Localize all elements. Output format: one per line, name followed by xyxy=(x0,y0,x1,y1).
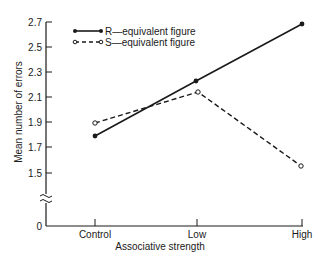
y-tick-label: 1.7 xyxy=(28,142,42,153)
y-tick-label: 1.5 xyxy=(28,168,42,179)
axis-break-icon xyxy=(40,200,52,203)
data-point-s-control xyxy=(93,121,97,125)
data-point-r-high xyxy=(300,22,305,27)
line-chart: 2.7 2.5 2.3 2.1 1.9 1.7 1.5 0 Control Lo… xyxy=(0,0,327,265)
y-tick-label: 2.3 xyxy=(28,67,42,78)
legend-r-marker-icon xyxy=(99,29,103,33)
y-axis-title: Mean number of errors xyxy=(13,61,24,163)
x-ticks xyxy=(95,219,302,226)
y-tick-label: 2.1 xyxy=(28,92,42,103)
y-ticks xyxy=(46,22,52,173)
x-axis-title: Associative strength xyxy=(115,241,205,252)
legend-r-label: R—equivalent figure xyxy=(105,26,196,37)
y-tick-label: 2.5 xyxy=(28,42,42,53)
y-tick-label: 0 xyxy=(36,221,42,232)
y-tick-labels: 2.7 2.5 2.3 2.1 1.9 1.7 1.5 0 xyxy=(28,17,42,232)
data-point-r-low xyxy=(194,79,199,84)
data-point-r-control xyxy=(93,134,98,139)
legend-r-marker-icon xyxy=(73,29,77,33)
legend-s-marker-icon xyxy=(99,40,103,44)
series-s-line xyxy=(95,92,301,166)
x-tick-label-high: High xyxy=(292,229,313,240)
legend-s-marker-icon xyxy=(73,40,77,44)
y-tick-label: 1.9 xyxy=(28,117,42,128)
x-tick-label-control: Control xyxy=(79,229,111,240)
data-point-s-high xyxy=(299,164,303,168)
x-tick-label-low: Low xyxy=(188,229,207,240)
data-point-s-low xyxy=(196,90,200,94)
y-tick-label: 2.7 xyxy=(28,17,42,28)
axis-break-icon xyxy=(40,195,52,198)
legend: R—equivalent figure S—equivalent figure xyxy=(73,26,196,48)
legend-s-label: S—equivalent figure xyxy=(105,37,195,48)
